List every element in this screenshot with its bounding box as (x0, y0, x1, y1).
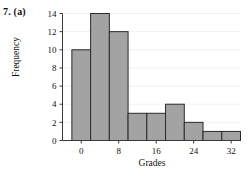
histogram-bar (72, 50, 91, 141)
x-tick-label: 16 (152, 146, 162, 156)
histogram-bar (109, 32, 128, 141)
plot-svg: 02468101214 08162432 (0, 0, 249, 173)
histogram-bar (128, 113, 147, 140)
x-tick-label: 32 (227, 146, 236, 156)
y-tick-label: 12 (48, 27, 57, 37)
histogram-bar (222, 131, 241, 140)
y-axis-ticks-group: 02468101214 (48, 9, 63, 146)
figure-container: 7. (a) Frequency Grades 02468101214 0816… (0, 0, 249, 173)
y-tick-label: 8 (52, 63, 57, 73)
histogram-bar (166, 104, 185, 140)
x-tick-label: 24 (189, 146, 199, 156)
histogram-chart: Frequency Grades 02468101214 08162432 (0, 0, 249, 173)
histogram-bar (91, 14, 110, 141)
bars-group (72, 14, 241, 141)
histogram-bar (203, 131, 222, 140)
x-tick-label: 8 (116, 146, 121, 156)
y-tick-label: 0 (52, 136, 57, 146)
y-tick-label: 14 (48, 9, 58, 19)
histogram-bar (184, 122, 203, 140)
x-axis-ticks-group: 08162432 (79, 141, 236, 156)
y-tick-label: 6 (52, 81, 57, 91)
histogram-bar (147, 113, 166, 140)
y-tick-label: 10 (48, 45, 58, 55)
y-tick-label: 4 (52, 99, 57, 109)
x-tick-label: 0 (79, 146, 84, 156)
y-tick-label: 2 (52, 118, 57, 128)
